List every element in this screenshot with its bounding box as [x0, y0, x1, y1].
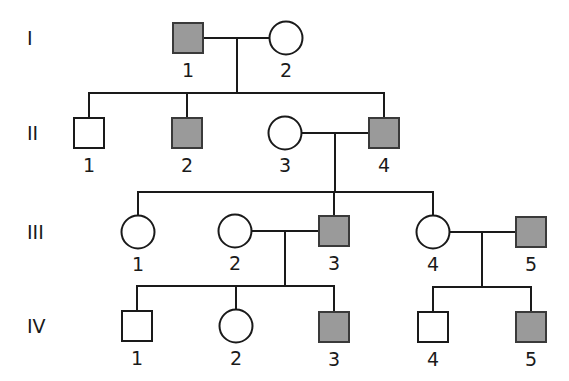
affected-male-square-icon [319, 216, 349, 246]
affected-male-square-icon [172, 118, 202, 148]
pedigree-lines [88, 38, 532, 312]
generation-label: II [27, 122, 38, 144]
individual-number: 2 [229, 252, 241, 274]
individual-iv-2: 2 [220, 310, 253, 370]
individual-iv-1: 1 [122, 311, 152, 369]
individual-number: 3 [279, 154, 291, 176]
individual-number: 1 [131, 347, 143, 369]
affected-male-square-icon [369, 118, 399, 148]
individual-number: 1 [132, 253, 144, 275]
individual-ii-2: 2 [172, 118, 202, 176]
individual-ii-1: 1 [74, 118, 104, 176]
affected-male-square-icon [319, 312, 349, 342]
individual-iii-1: 1 [122, 216, 155, 276]
generation-label: IV [27, 315, 46, 337]
individual-number: 1 [182, 59, 194, 81]
individual-ii-4: 4 [369, 118, 399, 176]
individual-i-1: 1 [173, 23, 203, 81]
individual-iii-3: 3 [319, 216, 349, 274]
unaffected-female-circle-icon [269, 117, 302, 150]
individual-number: 2 [230, 347, 242, 369]
individuals: 1212341234512345 [74, 22, 546, 371]
individual-number: 3 [328, 252, 340, 274]
generation-label: III [27, 221, 44, 243]
individual-iv-4: 4 [418, 312, 448, 370]
unaffected-female-circle-icon [219, 215, 252, 248]
unaffected-female-circle-icon [220, 310, 253, 343]
unaffected-male-square-icon [122, 311, 152, 341]
individual-number: 5 [525, 348, 537, 370]
individual-number: 1 [83, 154, 95, 176]
individual-number: 4 [427, 253, 439, 275]
individual-number: 4 [378, 154, 390, 176]
individual-ii-3: 3 [269, 117, 302, 177]
unaffected-female-circle-icon [270, 22, 303, 55]
individual-iii-5: 5 [516, 217, 546, 275]
unaffected-male-square-icon [418, 312, 448, 342]
affected-male-square-icon [516, 217, 546, 247]
individual-iv-5: 5 [516, 312, 546, 370]
individual-number: 4 [427, 348, 439, 370]
individual-number: 2 [280, 59, 292, 81]
pedigree-chart: IIIIIIIV 1212341234512345 [0, 0, 569, 381]
unaffected-female-circle-icon [417, 216, 450, 249]
generation-labels: IIIIIIIV [27, 27, 46, 337]
affected-male-square-icon [173, 23, 203, 53]
individual-i-2: 2 [270, 22, 303, 82]
individual-iii-4: 4 [417, 216, 450, 276]
unaffected-male-square-icon [74, 118, 104, 148]
affected-male-square-icon [516, 312, 546, 342]
generation-label: I [27, 27, 33, 49]
unaffected-female-circle-icon [122, 216, 155, 249]
individual-iii-2: 2 [219, 215, 252, 275]
individual-number: 3 [328, 348, 340, 370]
individual-number: 2 [181, 154, 193, 176]
individual-iv-3: 3 [319, 312, 349, 370]
individual-number: 5 [525, 253, 537, 275]
